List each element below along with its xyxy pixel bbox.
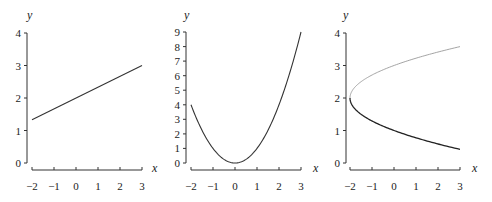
x-axis-title: x [312,161,319,175]
series-line [32,66,142,120]
x-tick-label: 0 [73,180,79,192]
y-tick-label: 0 [16,157,22,169]
figure: y 0 1 2 3 4 −2 −1 0 1 2 3 [0,0,492,202]
x-axis: −2 −1 0 1 2 3 [344,167,463,192]
x-tick-label: 3 [457,180,463,192]
x-tick-label: −2 [26,180,38,192]
x-tick-label: 2 [276,180,282,192]
chart-linear: y 0 1 2 3 4 −2 −1 0 1 2 3 [16,8,159,192]
y-tick-label: 4 [16,27,22,39]
series-curve [191,32,301,163]
y-axis-title: y [26,8,33,22]
y-axis: 0 1 2 3 4 5 6 7 8 9 [175,26,187,169]
x-tick-label: −2 [344,180,356,192]
y-tick-label: 3 [175,113,181,125]
series-lower-branch [350,98,460,149]
x-axis: −2 −1 0 1 2 3 [26,167,145,192]
y-tick-label: 2 [335,92,341,104]
y-tick-label: 2 [16,92,22,104]
y-tick-label: 8 [175,41,181,53]
x-tick-label: 2 [117,180,123,192]
x-tick-label: 3 [139,180,145,192]
y-tick-label: 3 [335,60,341,72]
y-tick-label: 7 [175,55,181,67]
y-tick-label: 1 [335,125,341,137]
x-axis-title: x [151,161,158,175]
x-tick-label: −1 [48,180,60,192]
y-tick-label: 0 [335,157,341,169]
x-tick-label: 3 [298,180,304,192]
y-axis-title: y [183,8,190,22]
x-tick-label: 0 [232,180,238,192]
y-tick-label: 4 [175,99,181,111]
y-tick-label: 4 [335,27,341,39]
chart-sideways-parabola: y 0 1 2 3 4 −2 −1 0 1 2 3 [335,8,479,192]
y-tick-label: 1 [16,125,22,137]
x-tick-label: 2 [435,180,441,192]
y-tick-label: 9 [175,26,181,38]
series-upper-branch [350,47,460,98]
x-tick-label: −1 [207,180,219,192]
x-tick-label: −1 [366,180,378,192]
y-axis-title: y [342,8,349,22]
x-axis-title: x [471,161,478,175]
x-tick-label: 1 [95,180,101,192]
x-tick-label: 0 [391,180,397,192]
y-tick-label: 1 [175,142,181,154]
chart-parabola: y 0 1 2 3 4 5 6 7 8 9 [175,8,320,192]
y-tick-label: 2 [175,128,181,140]
x-tick-label: 1 [413,180,419,192]
x-tick-label: −2 [185,180,197,192]
y-tick-label: 3 [16,60,22,72]
y-axis: 0 1 2 3 4 [335,27,347,169]
y-axis: 0 1 2 3 4 [16,27,28,169]
x-tick-label: 1 [254,180,260,192]
x-axis: −2 −1 0 1 2 3 [185,167,304,192]
y-tick-label: 6 [175,70,181,82]
y-tick-label: 0 [175,157,181,169]
y-tick-label: 5 [175,84,181,96]
